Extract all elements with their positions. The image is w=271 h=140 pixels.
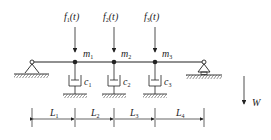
span-label-3: L3: [129, 107, 139, 119]
span-label-2: L2: [90, 107, 100, 119]
mass-label-2: m2: [121, 48, 131, 60]
span-label-1: L1: [49, 107, 59, 119]
force-label-3: f3(t): [144, 11, 160, 23]
damper-label-3: c3: [164, 76, 171, 88]
mass-label-1: m1: [83, 48, 93, 60]
span-label-4: L4: [175, 107, 185, 119]
gravity-label: W: [252, 97, 262, 108]
mass-label-3: m3: [162, 48, 172, 60]
force-label-1: f1(t): [64, 11, 80, 23]
damper-label-1: c1: [84, 76, 91, 88]
beam-diagram: f1(t) m1 c1 f2(t) m2 c2 f3(t) m3 c3: [0, 0, 271, 140]
right-roller-support: [186, 60, 222, 79]
force-label-2: f2(t): [103, 11, 119, 23]
damper-label-2: c2: [123, 76, 130, 88]
left-pin-support: [14, 60, 49, 78]
